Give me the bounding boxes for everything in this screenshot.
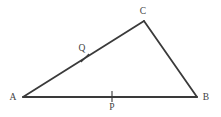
vertex-label-A: A [10, 92, 17, 102]
triangle-diagram-canvas: A B C P Q [0, 0, 221, 117]
figure-background [0, 0, 221, 117]
point-label-Q: Q [79, 43, 86, 53]
vertex-label-C: C [140, 6, 146, 16]
point-label-P: P [109, 102, 114, 112]
vertex-label-B: B [203, 92, 209, 102]
geometry-figure: A B C P Q [0, 0, 221, 117]
